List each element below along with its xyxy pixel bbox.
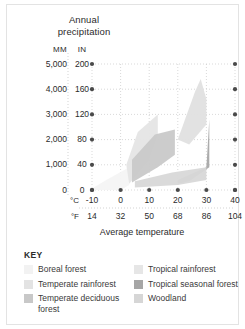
legend-item[interactable]: Tropical seasonal forest [134,279,242,290]
biome-region [92,167,129,190]
biome-climate-chart-page: Annual precipitation MM IN 5,0002004,000… [0,0,245,329]
y-axis-tick-mm: 3,000 [27,109,67,119]
x-axis-tick-celsius: -10 [79,195,105,205]
x-axis-unit-fahrenheit: °F [39,212,79,221]
axis-tick-dot [176,188,180,192]
x-axis-tick-celsius: 40 [222,195,245,205]
axis-tick-dot [233,188,237,192]
legend-item-label: Boreal forest [38,264,86,275]
x-axis-tick-celsius: 30 [193,195,219,205]
x-axis-tick-fahrenheit: 32 [108,211,134,221]
biome-region [126,114,158,183]
x-axis-tick-fahrenheit: 50 [136,211,162,221]
legend-item-label: Temperate deciduous forest [38,293,140,314]
x-axis-unit-celsius: °C [39,196,79,205]
legend-heading: KEY [24,250,239,260]
page-title-line-2: precipitation [29,26,139,38]
legend-column-left: Boreal forestTemperate rainforestTempera… [24,264,140,318]
legend-item[interactable]: Temperate rainforest [24,279,140,290]
axis-tick-dot [119,188,123,192]
legend-swatch-icon [134,294,143,303]
legend-swatch-icon [24,265,33,274]
biome-region [135,167,207,187]
y-axis-tick-in: 40 [71,159,93,169]
y-axis-tick-mm: 1,000 [27,159,67,169]
x-axis-tick-fahrenheit: 14 [79,211,105,221]
unit-header-mm: MM [33,45,67,54]
legend-item[interactable]: Temperate deciduous forest [24,293,140,314]
y-axis-tick-mm: 4,000 [27,84,67,94]
legend-swatch-icon [24,294,33,303]
biome-region [178,79,207,145]
legend-swatch-icon [134,280,143,289]
legend-item-label: Tropical seasonal forest [148,279,238,290]
x-axis-title: Average temperature [67,227,217,237]
y-axis-tick-mm: 2,000 [27,134,67,144]
y-axis-tick-in: 200 [71,59,93,69]
unit-header-in: IN [71,45,93,54]
y-axis-tick-in: 120 [71,109,93,119]
legend-item-label: Temperate rainforest [38,279,116,290]
legend-item[interactable]: Boreal forest [24,264,140,275]
legend-item[interactable]: Tropical rainforest [134,264,242,275]
x-axis-tick-fahrenheit: 104 [222,211,245,221]
biome-plot-svg [7,5,245,245]
y-axis-tick-mm: 5,000 [27,59,67,69]
axis-tick-dot [233,163,237,167]
axis-tick-dot [204,188,208,192]
page-title: Annual precipitation [29,14,139,38]
page-title-line-1: Annual [29,14,139,26]
legend-swatch-icon [134,265,143,274]
legend-swatch-icon [24,280,33,289]
axis-tick-dot [233,138,237,142]
axis-tick-dot [147,188,151,192]
x-axis-tick-celsius: 20 [165,195,191,205]
y-axis-tick-mm: 0 [27,185,67,195]
axis-tick-dot [233,112,237,116]
plot-area [7,5,245,245]
legend-item-label: Woodland [148,293,186,304]
y-axis-tick-in: 160 [71,84,93,94]
y-axis-tick-in: 80 [71,134,93,144]
y-axis-tick-in: 0 [71,185,93,195]
legend-column-right: Tropical rainforestTropical seasonal for… [134,264,242,308]
x-axis-tick-fahrenheit: 68 [165,211,191,221]
legend-item[interactable]: Woodland [134,293,242,304]
x-axis-tick-celsius: 10 [136,195,162,205]
chart-panel: Annual precipitation MM IN 5,0002004,000… [6,4,239,325]
biome-region [132,130,175,183]
x-axis-tick-celsius: 0 [108,195,134,205]
axis-tick-dot [233,62,237,66]
legend: KEY Boreal forestTemperate rainforestTem… [24,250,239,324]
axis-tick-dot [233,87,237,91]
biome-region [178,119,210,183]
x-axis-tick-fahrenheit: 86 [193,211,219,221]
axis-tick-dot [233,188,237,192]
legend-item-label: Tropical rainforest [148,264,216,275]
